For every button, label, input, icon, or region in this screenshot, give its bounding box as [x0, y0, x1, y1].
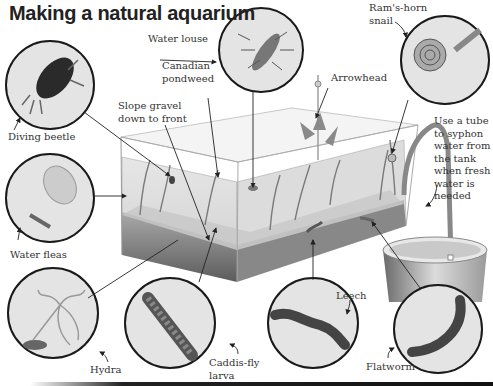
label-line: Slope gravel: [118, 100, 187, 113]
label-rams-horn-snail: Ram's-horn snail: [369, 2, 427, 27]
label-line: larva: [209, 370, 259, 383]
label-line: to syphon: [434, 128, 491, 141]
label-line: needed: [434, 190, 491, 203]
label-arrowhead: Arrowhead: [331, 72, 387, 85]
label-line: Caddis-fly: [209, 357, 259, 370]
label-caddis-fly-larva: Caddis-fly larva: [209, 357, 259, 382]
circle-rams-horn-snail: [401, 16, 489, 104]
label-line: Ram's-horn: [369, 2, 427, 15]
label-hydra: Hydra: [90, 364, 122, 377]
aquarium-tank: [121, 108, 418, 282]
label-canadian-pondweed: Canadian pondweed: [162, 60, 214, 85]
label-leech: Leech: [336, 290, 367, 303]
label-flatworm: Flatworm: [366, 361, 415, 374]
circle-caddis-fly-larva: [125, 278, 215, 368]
label-line: Use a tube: [434, 115, 491, 128]
aquarium-diagram: Making a natural aquarium Water louse Ra…: [0, 0, 493, 386]
label-line: snail: [369, 15, 427, 28]
label-slope-gravel: Slope gravel down to front: [118, 100, 187, 125]
label-line: down to front: [118, 113, 187, 126]
label-water-louse: Water louse: [148, 33, 208, 46]
label-water-fleas: Water fleas: [10, 249, 67, 262]
label-line: when fresh: [434, 165, 491, 178]
snail-in-tank: [388, 154, 396, 162]
bottom-divider: [30, 382, 493, 386]
label-line: pondweed: [162, 73, 214, 86]
label-diving-beetle: Diving beetle: [8, 131, 75, 144]
circle-flatworm: [394, 285, 482, 373]
diagram-illustration: [0, 0, 493, 386]
label-line: water from: [434, 140, 491, 153]
label-syphon-note: Use a tube to syphon water from the tank…: [434, 115, 491, 203]
circle-hydra: [8, 268, 98, 358]
circle-diving-beetle: [6, 41, 94, 129]
label-line: water is: [434, 178, 491, 191]
label-line: Canadian: [162, 60, 214, 73]
label-line: the tank: [434, 153, 491, 166]
circle-water-fleas: [6, 154, 94, 242]
page-title: Making a natural aquarium: [9, 2, 255, 25]
beetle-in-tank: [169, 176, 175, 184]
